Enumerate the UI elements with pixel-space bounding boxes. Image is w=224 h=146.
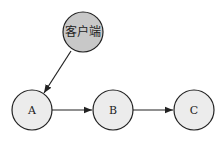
node-client-label: 客户端 bbox=[65, 24, 101, 39]
edge-client-to-a bbox=[44, 51, 71, 93]
node-c[interactable]: C bbox=[174, 90, 214, 130]
node-a-label: A bbox=[27, 104, 37, 117]
diagram-canvas: 客户端 A B C bbox=[0, 0, 224, 146]
node-client[interactable]: 客户端 bbox=[63, 12, 103, 52]
node-c-label: C bbox=[190, 104, 198, 117]
node-b[interactable]: B bbox=[93, 90, 133, 130]
node-a[interactable]: A bbox=[12, 90, 52, 130]
node-b-label: B bbox=[109, 104, 117, 117]
